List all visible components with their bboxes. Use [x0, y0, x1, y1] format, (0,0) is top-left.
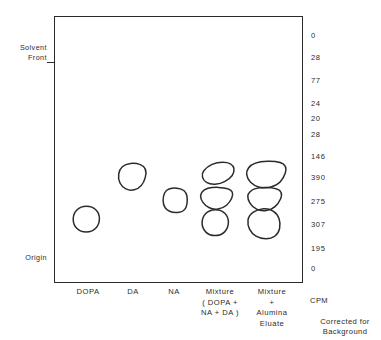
- cpm-value: 28: [311, 130, 321, 139]
- chromatogram-figure: Solvent Front Origin DOPA DA NA: [0, 0, 381, 340]
- lane-caption-na: NA: [155, 287, 193, 298]
- cpm-caption-body: Corrected for Background: [320, 317, 370, 337]
- cpm-value: 0: [311, 31, 316, 40]
- lane-caption-dopa: DOPA: [60, 287, 116, 298]
- cpm-value: 24: [311, 99, 321, 108]
- cpm-value: 0: [311, 264, 316, 273]
- origin-label: Origin: [0, 253, 47, 263]
- lane-caption-da: DA: [112, 287, 154, 298]
- solvent-front-label: Solvent Front: [0, 43, 47, 63]
- cpm-caption-head: CPM: [306, 296, 381, 307]
- cpm-value: 390: [311, 173, 325, 182]
- solvent-front-tick: [47, 62, 55, 63]
- lane-caption-mixture-alumina: Mixture + Alumina Eluate: [243, 287, 301, 329]
- cpm-value: 146: [311, 152, 325, 161]
- cpm-value: 77: [311, 76, 321, 85]
- cpm-value: 275: [311, 197, 325, 206]
- cpm-value: 195: [311, 244, 325, 253]
- cpm-value: 28: [311, 53, 321, 62]
- plot-frame: [54, 16, 303, 283]
- cpm-value: 20: [311, 114, 321, 123]
- cpm-axis-caption: CPM Corrected for Background: [306, 285, 381, 338]
- cpm-value: 307: [311, 220, 325, 229]
- lane-caption-mixture: Mixture ( DOPA + NA + DA ): [189, 287, 251, 319]
